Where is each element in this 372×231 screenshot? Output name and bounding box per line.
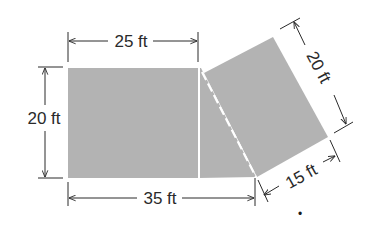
left-rectangle	[68, 68, 198, 178]
label-tilted-short-side: 15 ft	[282, 160, 320, 193]
dimension-top-25ft: 25 ft	[68, 32, 198, 62]
dimension-left-20ft: 20 ft	[27, 67, 63, 178]
stray-mark: •	[298, 207, 302, 221]
area-diagram: 25 ft 20 ft 35 ft 20 ft 15 ft •	[0, 0, 372, 231]
label-top-width: 25 ft	[114, 32, 147, 51]
dimension-bottom-35ft: 35 ft	[68, 178, 255, 208]
label-bottom-width: 35 ft	[143, 189, 176, 208]
label-tilted-long-side: 20 ft	[302, 48, 334, 86]
label-left-height: 20 ft	[27, 109, 60, 128]
